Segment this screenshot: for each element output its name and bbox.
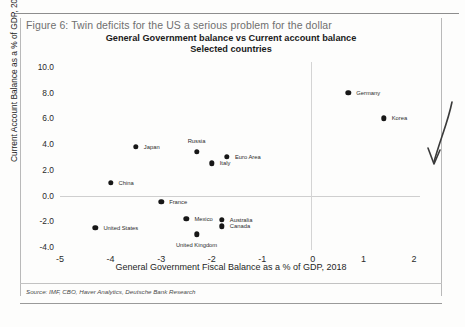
data-point-marker[interactable] (158, 199, 163, 204)
zero-vertical-line (311, 62, 312, 250)
bottom-divider (20, 303, 442, 304)
data-point-marker[interactable] (184, 216, 189, 221)
data-point-label: Australia (230, 217, 253, 223)
data-point-label: Russia (188, 138, 206, 144)
x-axis-label: General Government Fiscal Balance as a %… (20, 262, 442, 272)
figure-caption: Figure 6: Twin deficits for the US a ser… (26, 19, 332, 31)
data-point-label: China (119, 180, 134, 186)
data-point-marker[interactable] (346, 90, 351, 95)
scatter-plot-area: 10.08.06.04.02.00.0-2.0-4.0 -5-4-3-2-101… (60, 67, 414, 247)
y-tick-label: -4.0 (40, 242, 54, 252)
figure-page: Figure 6: Twin deficits for the US a ser… (0, 0, 465, 327)
figure-frame-right (441, 18, 442, 296)
y-tick-label: 8.0 (42, 88, 54, 98)
data-point-label: United States (103, 225, 138, 231)
data-point-marker[interactable] (133, 144, 138, 149)
data-point-label: Germany (356, 90, 380, 96)
y-tick-label: 6.0 (42, 113, 54, 123)
y-tick-label: -2.0 (40, 216, 54, 226)
top-divider (14, 13, 459, 14)
y-tick-label: 2.0 (42, 165, 54, 175)
y-tick-label: 10.0 (38, 62, 54, 72)
chart-subtitle: Selected countries (20, 44, 442, 54)
figure-frame-left (20, 18, 21, 296)
y-tick-label: 0.0 (42, 191, 54, 201)
data-point-label: Euro Area (235, 154, 261, 160)
data-point-marker[interactable] (194, 149, 199, 154)
data-point-label: France (169, 199, 187, 205)
data-point-label: United Kingdom (176, 242, 217, 248)
data-point-label: Mexico (194, 216, 212, 222)
data-point-marker[interactable] (381, 116, 386, 121)
data-point-marker[interactable] (108, 180, 113, 185)
source-note: Source: IMF, CBO, Haver Analytics, Deuts… (26, 288, 196, 295)
data-point-marker[interactable] (93, 225, 98, 230)
data-point-label: Japan (144, 144, 160, 150)
y-tick-label: 4.0 (42, 139, 54, 149)
data-point-label: Canada (230, 223, 250, 229)
data-point-marker[interactable] (219, 224, 224, 229)
y-axis-label: Current Account Balance as a % of GDP, 2… (9, 0, 19, 162)
data-point-marker[interactable] (209, 161, 214, 166)
data-point-marker[interactable] (194, 231, 199, 236)
data-point-label: Italy (220, 160, 231, 166)
data-point-marker[interactable] (219, 217, 224, 222)
zero-horizontal-line (60, 196, 420, 197)
data-point-marker[interactable] (224, 154, 229, 159)
data-point-label: Korea (392, 115, 407, 121)
chart-title: General Government balance vs Current ac… (20, 33, 442, 44)
source-divider-top (20, 283, 442, 284)
